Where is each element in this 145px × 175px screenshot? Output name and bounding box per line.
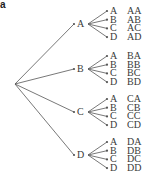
- tree-diagram-lines: [0, 0, 145, 175]
- outcome-label: BD: [127, 77, 141, 87]
- arrow-head-icon: [106, 150, 108, 152]
- arrow-head-icon: [106, 141, 108, 143]
- arrow-head-icon: [106, 55, 108, 57]
- second-level-node: D: [110, 120, 117, 130]
- second-level-node: D: [110, 32, 117, 42]
- second-level-node: D: [110, 163, 117, 173]
- arrow-head-icon: [106, 167, 108, 169]
- arrow-head-icon: [106, 64, 108, 66]
- outcome-label: AD: [127, 32, 141, 42]
- arrow-head-icon: [73, 111, 75, 113]
- arrow-head-icon: [106, 27, 108, 29]
- arrow-head-icon: [106, 115, 108, 117]
- first-level-node: D: [77, 150, 84, 160]
- second-level-node: D: [110, 77, 117, 87]
- arrow-head-icon: [106, 10, 108, 12]
- branch-line: [15, 84, 74, 112]
- arrow-head-icon: [106, 36, 108, 38]
- branch-line: [15, 84, 74, 155]
- branch-line: [15, 69, 74, 84]
- arrow-head-icon: [106, 81, 108, 83]
- arrow-head-icon: [73, 68, 75, 70]
- arrow-head-icon: [106, 98, 108, 100]
- first-level-node: B: [77, 64, 84, 74]
- outcome-label: DD: [127, 163, 141, 173]
- outcome-label: CD: [127, 120, 141, 130]
- arrow-head-icon: [106, 19, 108, 21]
- first-level-node: C: [77, 107, 84, 117]
- branch-line: [15, 24, 74, 84]
- arrow-head-icon: [106, 72, 108, 74]
- arrow-head-icon: [106, 158, 108, 160]
- arrow-head-icon: [106, 107, 108, 109]
- first-level-node: A: [77, 19, 84, 29]
- arrow-head-icon: [73, 23, 75, 25]
- arrow-head-icon: [106, 124, 108, 126]
- arrow-head-icon: [73, 154, 75, 156]
